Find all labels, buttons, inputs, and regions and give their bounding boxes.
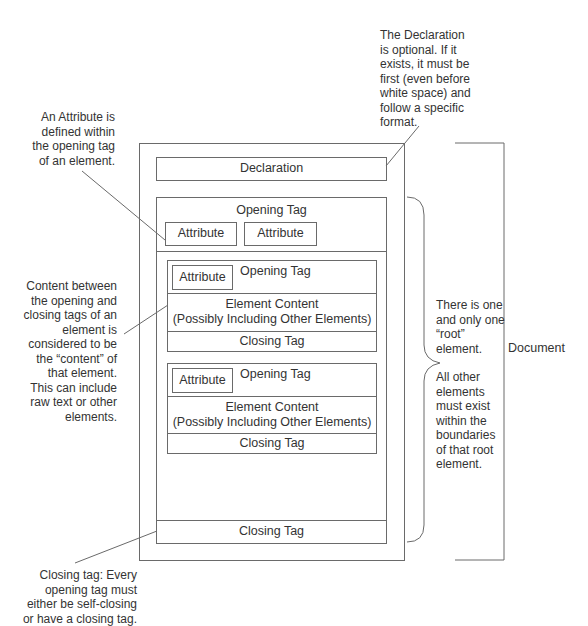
annotation-line: This can include	[10, 381, 117, 396]
annotation-line: follow a specific	[380, 101, 471, 116]
annotation-line: An Attribute is	[20, 110, 115, 125]
annotation-line: format.	[380, 115, 471, 130]
child-content-line2-2: (Possibly Including Other Elements)	[167, 415, 377, 430]
annotation-line: of that root	[436, 443, 495, 458]
child-attribute-label-1: Attribute	[172, 270, 233, 285]
annotation-line: either be self-closing	[10, 597, 137, 612]
annotation-line: defined within	[20, 125, 115, 140]
child-opening-divider-2	[167, 396, 377, 397]
root-attribute-label-2: Attribute	[244, 226, 317, 241]
child-opening-tag-label-1: Opening Tag	[240, 264, 311, 279]
child-attribute-label-2: Attribute	[172, 373, 233, 388]
root-closing-tag-label: Closing Tag	[156, 524, 387, 539]
child-content-line2-1: (Possibly Including Other Elements)	[167, 312, 377, 327]
child-closing-divider-1	[167, 331, 377, 332]
annotation-line: “root”	[436, 327, 505, 342]
child-opening-tag-label-2: Opening Tag	[240, 367, 311, 382]
annotation-line: elements	[436, 385, 495, 400]
annotation-line: exists, it must be	[380, 57, 471, 72]
declaration-annotation: The Declaration is optional. If it exist…	[380, 28, 471, 130]
annotation-line: opening tag must	[10, 583, 137, 598]
annotation-line: closing tags of an	[10, 308, 117, 323]
root-closing-divider	[156, 520, 387, 521]
annotation-line: the opening tag	[20, 139, 115, 154]
root-opening-divider	[156, 251, 387, 252]
root-opening-tag-label: Opening Tag	[156, 203, 387, 218]
annotation-line: considered to be	[10, 337, 117, 352]
document-label: Document	[508, 341, 565, 356]
attribute-annotation: An Attribute is defined within the openi…	[20, 110, 115, 168]
annotation-line: the “content” of	[10, 352, 117, 367]
annotation-line: element.	[436, 342, 505, 357]
annotation-line: or have a closing tag.	[10, 612, 137, 626]
annotation-line: All other	[436, 370, 495, 385]
child-closing-tag-label-2: Closing Tag	[167, 436, 377, 451]
annotation-line: first (even before	[380, 72, 471, 87]
root-annotation: There is one and only one “root” element…	[436, 298, 505, 356]
annotation-line: and only one	[436, 313, 505, 328]
child-closing-divider-2	[167, 433, 377, 434]
other-elements-annotation: All other elements must exist within the…	[436, 370, 495, 472]
annotation-line: is optional. If it	[380, 43, 471, 58]
annotation-line: Content between	[10, 279, 117, 294]
root-attribute-label-1: Attribute	[165, 226, 237, 241]
annotation-line: element is	[10, 323, 117, 338]
annotation-line: of an element.	[20, 154, 115, 169]
annotation-line: must exist	[436, 399, 495, 414]
annotation-line: that element.	[10, 366, 117, 381]
annotation-line: boundaries	[436, 428, 495, 443]
annotation-line: white space) and	[380, 86, 471, 101]
child-closing-tag-label-1: Closing Tag	[167, 334, 377, 349]
annotation-line: within the	[436, 414, 495, 429]
annotation-line: the opening and	[10, 294, 117, 309]
annotation-line: The Declaration	[380, 28, 471, 43]
annotation-line: raw text or other	[10, 395, 117, 410]
child-opening-divider-1	[167, 293, 377, 294]
annotation-line: There is one	[436, 298, 505, 313]
annotation-line: element.	[436, 457, 495, 472]
child-content-line1-2: Element Content	[167, 400, 377, 415]
annotation-line: elements.	[10, 410, 117, 425]
closing-tag-annotation: Closing tag: Every opening tag must eith…	[10, 568, 137, 626]
content-annotation: Content between the opening and closing …	[10, 279, 117, 424]
annotation-line: Closing tag: Every	[10, 568, 137, 583]
child-content-line1-1: Element Content	[167, 297, 377, 312]
declaration-label: Declaration	[156, 161, 387, 176]
